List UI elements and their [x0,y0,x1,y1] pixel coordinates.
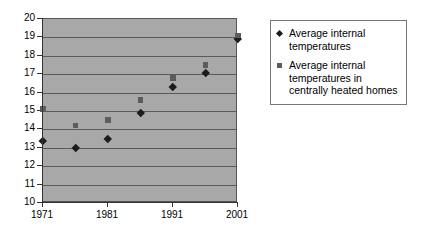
y-axis-tick-label: 11 [5,179,35,189]
y-axis-tick-label: 17 [5,68,35,78]
legend-entry-label: Average internal temperatures [289,27,401,52]
y-axis-tick-label-wrap: 17 [0,68,35,78]
data-point-marker [105,117,111,123]
legend-entry: Average internal temperatures [276,27,401,52]
x-axis-tick-label: 1971 [22,209,62,220]
data-point-marker [72,144,80,152]
y-axis-tick-label-wrap: 15 [0,105,35,115]
plot-area [42,18,237,202]
gridline [43,93,236,94]
y-axis-tick-label: 20 [5,13,35,23]
gridline [43,56,236,57]
chart-legend: Average internal temperatures Average in… [270,20,407,105]
y-axis-tick-label: 19 [5,31,35,41]
scatter-chart-figure: 1011121314151617181920 1971198119912001 … [0,0,422,243]
y-axis-tick-label: 12 [5,160,35,170]
x-axis-tick-label: 2001 [217,209,257,220]
gridline [43,37,236,38]
data-point-marker [104,135,112,143]
y-axis-line [42,18,43,203]
data-point-marker [39,137,47,145]
y-axis-tick-label: 13 [5,142,35,152]
legend-entry: Average internal temperatures in central… [276,59,401,97]
y-axis-tick-label-wrap: 11 [0,179,35,189]
y-axis-tick-label-wrap: 12 [0,160,35,170]
y-axis-tick-label: 16 [5,87,35,97]
x-axis-tick-label: 1991 [152,209,192,220]
y-axis-tick-label-wrap: 14 [0,123,35,133]
gridline [43,129,236,130]
x-axis-tick [107,202,108,207]
y-axis-tick-label-wrap: 16 [0,87,35,97]
data-point-marker [203,62,209,68]
y-axis-tick-label: 14 [5,123,35,133]
y-axis-tick-label-wrap: 20 [0,13,35,23]
y-axis-tick-label: 18 [5,50,35,60]
data-point-marker [235,33,241,39]
y-axis-tick-label: 15 [5,105,35,115]
data-point-marker [138,97,144,103]
diamond-marker-icon [276,30,286,40]
data-point-marker [169,83,177,91]
y-axis-tick-label-wrap: 19 [0,31,35,41]
x-axis-tick-label: 1981 [87,209,127,220]
y-axis-tick-label-wrap: 18 [0,50,35,60]
legend-entry-label: Average internal temperatures in central… [289,59,401,97]
x-axis-tick [237,202,238,207]
y-axis-tick-label-wrap: 10 [0,197,35,207]
y-axis-tick-label: 10 [5,197,35,207]
x-axis-line [42,202,238,203]
square-marker-icon [276,62,286,72]
x-axis-tick [172,202,173,207]
data-point-marker [202,68,210,76]
data-point-marker [170,75,176,81]
x-axis-tick [42,202,43,207]
gridline [43,166,236,167]
y-axis-tick-label-wrap: 13 [0,142,35,152]
gridline [43,185,236,186]
data-point-marker [73,123,79,129]
